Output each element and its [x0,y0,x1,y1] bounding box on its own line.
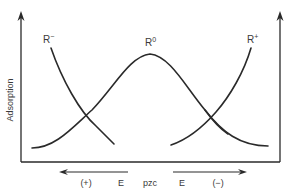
right-sign-label: (−) [212,178,223,188]
left-e-label: E [118,178,124,188]
left-sign-label: (+) [80,178,91,188]
curve-r-zero [32,54,228,148]
adsorption-diagram: Adsorption R− R0 R+ (+) E pzc E (−) [0,0,289,189]
label-r-plus: R+ [247,33,258,45]
curve-r-plus [171,48,251,145]
right-e-label: E [179,178,185,188]
label-r-minus: R− [43,33,54,45]
pzc-label: pzc [143,178,158,188]
label-r-zero: R0 [145,36,156,48]
curve-r-zero-right-tail [205,110,268,146]
y-axis-label: Adsorption [5,78,15,121]
